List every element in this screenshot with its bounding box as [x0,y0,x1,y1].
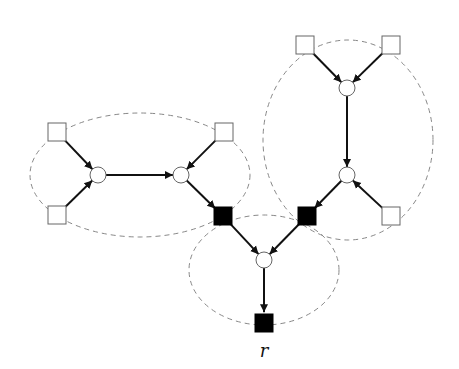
empty-square-node [48,206,66,224]
empty-square-node [382,36,400,54]
node-group [48,36,400,332]
edge-arrow [187,140,217,170]
filled-square-node [255,314,273,332]
empty-square-node [48,123,66,141]
edge-arrow [270,224,300,255]
edge-arrow [353,180,383,208]
edge-arrow [353,53,384,83]
root-label: r [260,340,269,361]
edge-arrow [65,181,93,208]
edge-arrow [313,53,342,83]
empty-square-node [382,207,400,225]
filled-square-node [298,207,316,225]
filled-square-node [214,207,232,225]
edge-arrow [315,181,342,209]
circle-node [90,167,106,183]
edge-arrow [230,224,258,254]
edge-arrow [187,181,216,209]
edge-group [64,53,383,313]
circle-node [173,167,189,183]
circle-node [256,252,272,268]
edge-arrow [64,140,92,169]
circle-node [339,167,355,183]
empty-square-node [215,123,233,141]
circle-node [339,80,355,96]
empty-square-node [296,36,314,54]
tree-diagram [0,0,459,369]
